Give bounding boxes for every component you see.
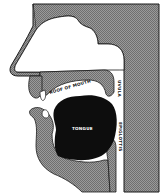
lower-tooth: [42, 110, 49, 118]
uvula-label: UVULA: [117, 80, 122, 98]
mouth-anatomy-diagram: ROOF OF MOUTH UVULA TONGUE EPIGLOTTIS: [0, 0, 164, 196]
upper-tooth: [40, 90, 46, 101]
tongue-label: TONGUE: [72, 126, 93, 131]
epiglottis-label: EPIGLOTTIS: [118, 122, 123, 151]
